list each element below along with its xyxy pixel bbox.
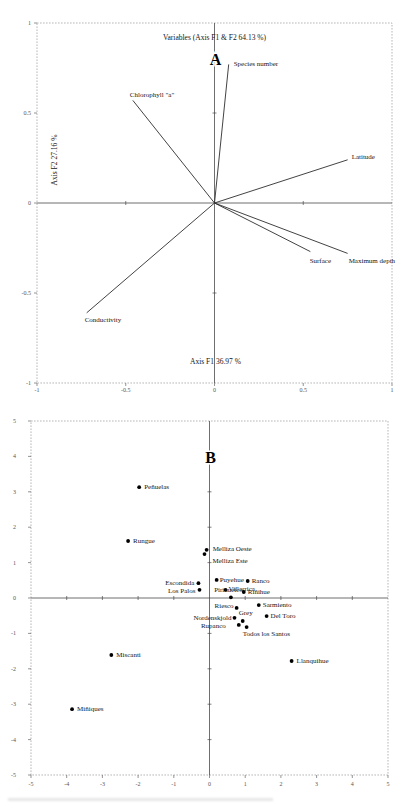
y-tick-label: 1 <box>13 560 16 566</box>
point-label-del-toro: Del Toro <box>271 612 296 620</box>
point-ranco <box>246 579 250 583</box>
y-tick-label: 2 <box>13 524 16 530</box>
point-pirihueico <box>229 595 233 599</box>
point-del-toro <box>265 614 269 618</box>
point-nordenskjold <box>233 616 237 620</box>
point-label-llanquihue: Llanquihue <box>297 657 329 665</box>
x-tick-label: -3 <box>100 781 105 787</box>
point-los-palos <box>198 588 202 592</box>
x-tick-label: 1 <box>391 387 394 393</box>
point-label-grey: Grey <box>239 609 253 617</box>
x-tick-label: -1 <box>35 387 40 393</box>
x-tick-label: -2 <box>136 781 141 787</box>
x-tick-label: 3 <box>315 781 318 787</box>
y-tick-label: -2 <box>11 666 16 672</box>
vector-species-number <box>215 64 229 203</box>
y-tick-label: -0.5 <box>22 290 32 296</box>
x-tick-label: 5 <box>387 781 390 787</box>
vector-label-species-number: Species number <box>234 60 279 68</box>
vector-maximum-depth <box>215 203 348 253</box>
x-tick-label: 4 <box>351 781 354 787</box>
figure-page: -1-0.500.51-1-0.500.51Variables (Axis F1… <box>0 0 414 812</box>
y-tick-label: -1 <box>11 630 16 636</box>
point-mi-iques <box>70 707 74 711</box>
x-tick-label: 2 <box>279 781 282 787</box>
y-tick-label: 5 <box>13 418 16 424</box>
point-label-rupanco: Rupanco <box>201 622 226 630</box>
y-tick-label: -1 <box>26 380 31 386</box>
x-axis-title: Axis F1 36.97 % <box>190 357 241 366</box>
point-label-pirihueico: Pirihueico <box>214 586 243 594</box>
vector-label-conductivity: Conductivity <box>85 316 122 324</box>
y-tick-label: 0 <box>13 595 16 601</box>
vector-label-latitude: Latitude <box>352 153 375 161</box>
x-tick-label: -1 <box>171 781 176 787</box>
scan-artifact <box>8 798 273 801</box>
point-todos-los-santos <box>245 625 249 629</box>
point-label-ranco: Ranco <box>252 577 270 585</box>
point-label-ri-ihue: Riñihue <box>248 588 270 596</box>
vector-chlorophyll-a <box>133 100 215 203</box>
vector-label-chlorophyll-a: Chlorophyll "a" <box>130 91 175 99</box>
point-rupanco <box>237 623 241 627</box>
point-melliza-oeste <box>205 548 209 552</box>
panel-a-variables-biplot: -1-0.500.51-1-0.500.51Variables (Axis F1… <box>0 0 414 400</box>
point-miscanti <box>109 653 113 657</box>
point-llanquihue <box>290 659 294 663</box>
y-tick-label: 1 <box>28 20 31 26</box>
x-tick-label: 0 <box>208 781 211 787</box>
point-escondida <box>197 581 201 585</box>
x-tick-label: -0.5 <box>121 387 131 393</box>
point-label-riesco: Riesco <box>215 602 235 610</box>
point-label-puyehue: Puyehue <box>220 576 244 584</box>
point-label-melliza-este: Melliza Este <box>213 557 248 565</box>
point-pe-uelas <box>137 485 141 489</box>
panel-letter-a: A <box>210 51 222 68</box>
point-label-los-palos: Los Palos <box>168 587 196 595</box>
x-tick-label: 0.5 <box>300 387 308 393</box>
vector-latitude <box>215 160 348 203</box>
point-label-sarmiento: Sarmiento <box>263 601 292 609</box>
panel-letter-b: B <box>205 449 216 466</box>
point-puyehue <box>215 578 219 582</box>
y-tick-label: 4 <box>13 453 16 459</box>
y-tick-label: 3 <box>13 489 16 495</box>
y-tick-label: -3 <box>11 701 16 707</box>
x-tick-label: 0 <box>213 387 216 393</box>
point-sarmiento <box>257 603 261 607</box>
y-tick-label: -5 <box>11 772 16 778</box>
x-tick-label: -5 <box>29 781 34 787</box>
point-grey <box>241 619 245 623</box>
panel-title: Variables (Axis F1 & F2 64.13 %) <box>163 33 267 42</box>
point-label-rungue: Rungue <box>133 537 155 545</box>
y-axis-title: Axis F2 27.16 % <box>50 135 59 186</box>
point-label-todos-los-santos: Todos los Santos <box>243 630 291 638</box>
point-ri-ihue <box>242 590 246 594</box>
panel-b-observations-scatter: -5-4-3-2-1012345-5-4-3-2-1012345BPeñuela… <box>0 400 414 812</box>
point-label-mi-iques: Miñiques <box>77 705 104 713</box>
vector-surface <box>215 203 311 252</box>
point-melliza-este <box>203 552 207 556</box>
point-rungue <box>126 539 130 543</box>
y-tick-label: -4 <box>11 737 16 743</box>
point-label-nordenskjold: Nordenskjold <box>193 614 232 622</box>
vector-label-surface: Surface <box>310 257 331 265</box>
vector-conductivity <box>87 203 215 313</box>
x-tick-label: 1 <box>244 781 247 787</box>
y-tick-label: 0.5 <box>24 110 32 116</box>
y-tick-label: 0 <box>28 200 31 206</box>
point-label-miscanti: Miscanti <box>116 651 141 659</box>
point-label-melliza-oeste: Melliza Oeste <box>213 545 252 553</box>
x-tick-label: -4 <box>64 781 69 787</box>
point-label-pe-uelas: Peñuelas <box>144 483 169 491</box>
vector-label-maximum-depth: Maximum depth <box>349 257 396 265</box>
